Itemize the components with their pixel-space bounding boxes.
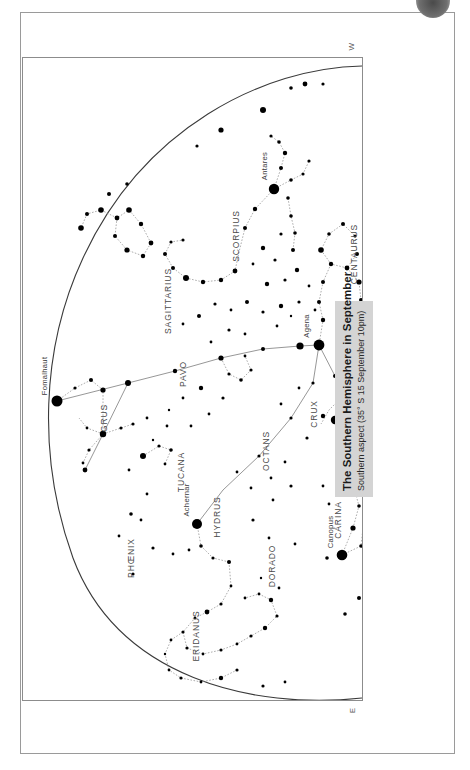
star	[197, 314, 201, 318]
star	[179, 676, 182, 679]
star	[301, 172, 304, 175]
star	[277, 140, 281, 144]
star	[131, 422, 134, 425]
star	[146, 493, 149, 496]
star	[359, 544, 363, 548]
cardinal-label-west: W	[347, 43, 356, 51]
star	[343, 612, 347, 616]
star	[243, 226, 247, 230]
star	[164, 653, 166, 655]
star	[289, 214, 293, 218]
star	[170, 639, 173, 642]
star	[303, 82, 308, 87]
star-fomalhaut	[52, 396, 63, 407]
star	[202, 653, 205, 656]
star	[295, 268, 299, 272]
star	[290, 315, 292, 317]
star	[322, 485, 325, 488]
star	[275, 614, 278, 617]
star	[119, 426, 122, 429]
star	[139, 222, 143, 226]
cardinal-label-east: E	[348, 708, 357, 714]
star-antares	[269, 184, 279, 194]
figure-line-scorpius	[173, 189, 274, 282]
star	[235, 668, 238, 671]
star	[297, 300, 300, 303]
constellation-label-octans: OCTANS	[261, 431, 271, 471]
star-labels-group: Fomalhaut Antares Agena Achernar Canopus	[40, 152, 335, 548]
star	[152, 439, 154, 441]
star	[329, 262, 333, 266]
star	[233, 269, 238, 274]
star	[115, 216, 120, 221]
star	[146, 417, 149, 420]
star	[82, 462, 85, 465]
constellation-label-pavo: PAVO	[178, 361, 188, 387]
star	[284, 681, 287, 684]
star	[296, 342, 303, 349]
star	[269, 134, 272, 137]
star	[284, 461, 287, 464]
star	[173, 369, 177, 373]
star	[157, 444, 160, 447]
star	[294, 543, 297, 546]
star	[269, 598, 273, 602]
star	[350, 525, 355, 530]
star	[169, 448, 173, 452]
star	[260, 107, 266, 113]
star	[201, 280, 205, 284]
constellation-label-eridanus: ERIDANUS	[191, 610, 201, 661]
star	[129, 512, 133, 516]
star	[289, 416, 292, 419]
star	[245, 300, 249, 304]
star	[261, 310, 264, 313]
star	[181, 238, 184, 241]
star	[188, 549, 191, 552]
star	[325, 556, 329, 560]
figure-line-pavo	[221, 356, 251, 380]
star	[73, 386, 76, 389]
star-agena	[314, 340, 325, 351]
star	[149, 241, 154, 246]
star-label-fomalhaut: Fomalhaut	[40, 356, 49, 395]
star	[140, 453, 146, 459]
star	[260, 577, 262, 579]
star	[166, 425, 169, 428]
star	[258, 593, 261, 596]
star	[279, 166, 283, 170]
star	[213, 302, 216, 305]
star	[219, 602, 222, 605]
star	[200, 681, 203, 684]
star	[210, 341, 213, 344]
star	[219, 648, 222, 651]
star-label-canopus: Canopus	[326, 516, 335, 549]
star	[219, 278, 223, 282]
star	[168, 409, 170, 411]
star	[311, 381, 314, 384]
horizon-arc	[49, 66, 362, 700]
figure-line-eridanus2	[165, 632, 183, 678]
guide-line-fomalhaut-pavo	[57, 345, 319, 401]
constellation-label-hydrus: HYDRUS	[212, 496, 222, 537]
star	[341, 222, 345, 226]
star	[327, 232, 331, 236]
star	[293, 231, 297, 235]
star	[253, 207, 257, 211]
star-label-agena: Agena	[302, 314, 311, 338]
star	[181, 630, 184, 633]
chart-title: The Southern Hemisphere in September	[341, 307, 354, 491]
star	[261, 246, 265, 250]
figure-line-tucana	[143, 446, 171, 464]
star	[278, 587, 281, 590]
star	[357, 596, 361, 600]
star	[218, 127, 223, 132]
star	[124, 247, 129, 252]
constellation-label-crux: CRUX	[309, 400, 319, 428]
star	[305, 436, 308, 439]
star	[286, 196, 290, 200]
star	[151, 546, 154, 549]
star	[276, 325, 279, 328]
star	[182, 397, 185, 400]
star	[205, 610, 210, 615]
constellation-labels-group: SCORPIUS SAGITTARIUS CENTAURUS PAVO GRUS…	[99, 210, 359, 661]
